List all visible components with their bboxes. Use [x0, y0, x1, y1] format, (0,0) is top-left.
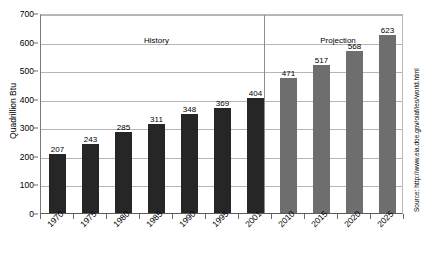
- bar-value-label-2015: 517: [315, 56, 328, 65]
- y-axis-tick-label: 600: [0, 38, 34, 48]
- plot-area: 207243285311348369404471517568623 Histor…: [40, 14, 403, 214]
- y-axis-tick-mark: [34, 156, 38, 157]
- x-axis-tick-mark: [304, 214, 305, 219]
- bar-2015: [313, 65, 330, 213]
- x-axis-tick-mark: [271, 214, 272, 219]
- bar-value-label-1995: 369: [216, 99, 229, 108]
- bar-value-label-2025: 623: [381, 26, 394, 35]
- period-caption-history: History: [144, 36, 169, 45]
- bar-1970: [49, 154, 66, 213]
- bar-2001: [247, 98, 264, 213]
- bar-1975: [82, 144, 99, 213]
- y-axis-tick-mark: [34, 185, 38, 186]
- bar-value-label-1985: 311: [150, 115, 163, 124]
- bar-1990: [181, 114, 198, 213]
- energy-consumption-bar-chart: Quadrillion Btu 0100200300400500600700 2…: [0, 0, 424, 259]
- x-axis-tick-mark: [370, 214, 371, 219]
- x-axis-tick-mark: [73, 214, 74, 219]
- bar-1980: [115, 132, 132, 213]
- x-axis-tick-labels: 1970197519801985199019952001201020152020…: [40, 214, 403, 259]
- bar-value-label-1980: 285: [117, 123, 130, 132]
- y-axis-tick-label: 700: [0, 9, 34, 19]
- y-axis-tick-label: 500: [0, 66, 34, 76]
- y-axis-tick-label: 400: [0, 95, 34, 105]
- bar-value-label-2010: 471: [282, 69, 295, 78]
- bar-2020: [346, 51, 363, 213]
- y-axis-tick-mark: [34, 14, 38, 15]
- bar-1985: [148, 124, 165, 213]
- y-axis-tick-mark: [34, 99, 38, 100]
- y-axis-tick-mark: [34, 214, 38, 215]
- y-axis-tick-label: 200: [0, 152, 34, 162]
- x-axis-tick-mark: [337, 214, 338, 219]
- bar-1995: [214, 108, 231, 213]
- y-axis-tick-labels: 0100200300400500600700: [0, 14, 36, 214]
- bar-value-label-1990: 348: [183, 105, 196, 114]
- y-axis-tick-mark: [34, 42, 38, 43]
- bar-2010: [280, 78, 297, 213]
- source-note: Source: http://www.eia.doe.gov/oiaf/ieo/…: [413, 68, 420, 212]
- gridline: [41, 15, 402, 16]
- x-axis-tick-mark: [106, 214, 107, 219]
- x-axis-tick-mark: [40, 214, 41, 219]
- x-axis-tick-mark: [139, 214, 140, 219]
- bar-value-label-1970: 207: [51, 145, 64, 154]
- x-axis-tick-mark: [205, 214, 206, 219]
- x-axis-tick-mark: [238, 214, 239, 219]
- bar-2025: [379, 35, 396, 213]
- bar-value-label-1975: 243: [84, 135, 97, 144]
- x-axis-tick-mark: [403, 214, 404, 219]
- y-axis-tick-mark: [34, 71, 38, 72]
- history-projection-divider: [264, 15, 265, 213]
- y-axis-tick-mark: [34, 128, 38, 129]
- period-caption-projection: Projection: [320, 36, 356, 45]
- x-axis-tick-mark: [172, 214, 173, 219]
- y-axis-tick-label: 0: [0, 209, 34, 219]
- bar-value-label-2001: 404: [249, 89, 262, 98]
- y-axis-tick-label: 100: [0, 180, 34, 190]
- y-axis-tick-label: 300: [0, 123, 34, 133]
